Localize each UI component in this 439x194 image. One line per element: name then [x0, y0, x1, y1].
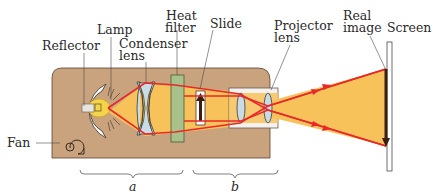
label-projector-line2: lens	[274, 30, 300, 45]
label-brace-b: b	[231, 179, 239, 194]
brace-b	[193, 170, 278, 178]
label-condenser-line2: lens	[119, 48, 145, 63]
projector-diagram: Reflector Lamp Condenser lens Heat filte…	[0, 0, 439, 194]
label-real-line2: image	[343, 20, 382, 35]
brace-a	[80, 170, 183, 178]
label-brace-a: a	[129, 179, 136, 194]
label-heat-line2: filter	[165, 20, 196, 35]
label-reflector: Reflector	[42, 38, 100, 53]
label-fan: Fan	[7, 135, 30, 150]
light-beam-outer	[270, 69, 386, 146]
label-screen: Screen	[387, 20, 431, 35]
screen	[387, 42, 392, 171]
label-slide: Slide	[210, 16, 242, 31]
label-lamp: Lamp	[97, 22, 133, 37]
